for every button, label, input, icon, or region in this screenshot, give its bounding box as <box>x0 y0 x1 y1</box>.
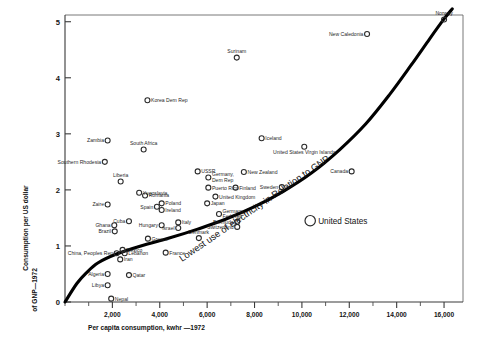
point-marker <box>159 208 164 213</box>
x-axis-title: Per capita consumption, kwhr —1972 <box>88 324 205 332</box>
y-tick-label: 4 <box>56 74 61 83</box>
x-tick-label: 6,000 <box>199 311 216 319</box>
data-point: Greece <box>145 236 168 242</box>
point-label: New Zealand <box>247 169 277 175</box>
point-marker <box>213 194 218 199</box>
data-point: United States <box>305 216 367 226</box>
point-label: Japan <box>211 200 225 206</box>
point-label: Canada <box>330 168 348 174</box>
data-point: Libya <box>92 282 110 288</box>
point-label: Qatar <box>133 272 146 278</box>
data-point: Spain <box>140 204 159 210</box>
scatter-plot: 2,0004,0006,0008,00010,00012,00014,00016… <box>0 0 484 344</box>
point-marker <box>154 204 159 209</box>
point-marker <box>137 190 142 195</box>
y-tick-label: 5 <box>56 18 61 27</box>
point-label: Romania <box>149 192 170 198</box>
point-marker <box>126 273 131 278</box>
x-tick-label: 4,000 <box>152 311 169 319</box>
point-marker <box>234 55 239 60</box>
data-point: Japan <box>205 200 225 206</box>
y-tick-label: 3 <box>56 130 60 139</box>
data-point: New Caledonia <box>329 31 370 37</box>
data-point: China, Peoples Rep <box>68 250 119 256</box>
point-marker <box>365 32 370 37</box>
point-label: United Kingdom <box>219 194 255 200</box>
point-marker <box>105 202 110 207</box>
point-marker <box>241 169 246 174</box>
point-marker <box>349 169 354 174</box>
axis-ticks <box>65 22 444 308</box>
point-marker <box>105 283 110 288</box>
point-label: Liberia <box>113 172 128 178</box>
point-marker <box>159 201 164 206</box>
data-point: Italy <box>176 219 192 225</box>
point-label: Iceland <box>265 135 282 141</box>
point-label: Brazil <box>98 228 111 234</box>
point-label: Zambia <box>87 137 104 143</box>
point-marker <box>163 250 168 255</box>
point-label: Southern Rhodesia <box>58 159 102 165</box>
point-label: Italy <box>182 219 192 225</box>
y-axis-title-line2: of GNP—1972 <box>31 268 38 312</box>
point-marker <box>141 147 146 152</box>
point-label: Hungary <box>139 222 159 228</box>
data-point: Canada <box>330 168 354 174</box>
data-point: United Kingdom <box>213 194 255 200</box>
point-marker <box>216 211 221 216</box>
data-point: Nepal <box>109 296 128 302</box>
x-tick-label: 14,000 <box>387 311 408 319</box>
data-point: Zaire <box>92 201 110 207</box>
point-label: China, Peoples Rep <box>68 250 113 256</box>
data-point: Iceland <box>259 135 282 141</box>
data-point: Lebanon <box>122 250 148 256</box>
point-label: South Africa <box>130 140 158 146</box>
data-point: Poland <box>159 200 181 206</box>
data-point: Brazil <box>98 228 117 234</box>
point-marker <box>145 98 150 103</box>
point-marker <box>176 226 181 231</box>
data-point: Qatar <box>126 272 145 278</box>
point-marker <box>305 216 315 226</box>
chart-container: 2,0004,0006,0008,00010,00012,00014,00016… <box>0 0 484 344</box>
data-point: Southern Rhodesia <box>58 159 108 165</box>
point-marker <box>118 179 123 184</box>
x-tick-label: 2,000 <box>104 311 121 319</box>
data-point: United States Virgin Islands <box>273 144 336 155</box>
point-label: Surinam <box>227 48 246 54</box>
data-point: South Africa <box>130 140 158 152</box>
y-axis-title-line1: Consumption per US dollar <box>22 185 30 271</box>
point-label: Israel <box>162 225 174 231</box>
point-marker <box>205 201 210 206</box>
point-label: Ireland <box>165 207 181 213</box>
data-points: SurinamNew CaledoniaNorwayKorea Dem RepI… <box>58 10 454 302</box>
point-label: New Caledonia <box>329 31 364 37</box>
point-label: Finland <box>239 185 256 191</box>
point-marker <box>259 136 264 141</box>
point-label: Korea Dem Rep <box>151 97 188 103</box>
x-tick-label: 12,000 <box>339 311 360 319</box>
data-point: Iran <box>118 256 133 262</box>
data-point: Ireland <box>159 207 181 213</box>
x-tick-label: 16,000 <box>434 311 455 319</box>
point-label: United States Virgin Islands <box>273 149 336 155</box>
data-point: Liberia <box>113 172 128 184</box>
data-point: Zambia <box>87 137 110 143</box>
point-label: Ghana <box>95 222 110 228</box>
data-point: Hungary <box>139 222 164 228</box>
point-marker <box>195 169 200 174</box>
data-point: Israel <box>162 225 181 231</box>
point-marker <box>176 220 181 225</box>
point-marker <box>126 219 131 224</box>
point-label: Spain <box>140 204 153 210</box>
point-marker <box>105 271 110 276</box>
point-label: Zaire <box>92 201 104 207</box>
point-label: Poland <box>165 200 181 206</box>
point-label: Greece <box>152 236 169 242</box>
point-marker <box>102 159 107 164</box>
data-point: Korea Dem Rep <box>145 97 188 103</box>
data-point: Surinam <box>227 48 246 60</box>
point-marker <box>118 257 123 262</box>
point-label: Norway <box>435 10 453 16</box>
point-label: Algeria <box>88 271 104 277</box>
